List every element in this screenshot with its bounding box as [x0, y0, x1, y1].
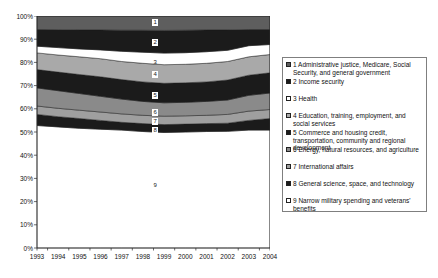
legend-item-4: 4 Education, training, employment, and s…	[286, 112, 424, 129]
band-number-label-3: 3	[152, 59, 158, 66]
legend-item-5: 5 Commerce and housing credit, transport…	[286, 129, 424, 146]
legend-swatch-7	[286, 164, 291, 169]
legend-label-3: 3 Health	[293, 95, 424, 103]
y-axis-label-40: 40%	[7, 152, 33, 159]
x-axis-label-2000: 2000	[174, 253, 196, 260]
legend-label-7: 7 International affairs	[293, 163, 424, 171]
y-axis-label-10: 10%	[7, 221, 33, 228]
band-number-label-8: 8	[152, 127, 158, 134]
x-axis-label-2001: 2001	[196, 253, 218, 260]
legend-swatch-3	[286, 96, 291, 101]
legend-item-2: 2 Income security	[286, 78, 424, 95]
legend-swatch-6	[286, 147, 291, 152]
legend-label-4: 4 Education, training, employment, and s…	[293, 112, 424, 127]
y-axis-label-70: 70%	[7, 82, 33, 89]
band-number-label-1: 1	[152, 19, 158, 26]
legend-item-1: 1 Administrative justice, Medicare, Soci…	[286, 61, 424, 78]
band-number-label-6: 6	[152, 109, 158, 116]
y-axis-label-100: 100%	[7, 13, 33, 20]
x-axis-label-1993: 1993	[26, 253, 48, 260]
legend-item-3: 3 Health	[286, 95, 424, 112]
y-axis-label-30: 30%	[7, 175, 33, 182]
legend-label-9: 9 Narrow military spending and veterans'…	[293, 197, 424, 212]
x-axis-label-1997: 1997	[111, 253, 133, 260]
x-axis-label-2003: 2003	[238, 253, 260, 260]
y-axis-label-0: 0%	[7, 245, 33, 252]
band-number-label-4: 4	[152, 71, 158, 78]
x-axis-label-1999: 1999	[153, 253, 175, 260]
legend-swatch-4	[286, 113, 291, 118]
legend-label-6: 6 Energy, natural resources, and agricul…	[293, 146, 424, 154]
legend-label-1: 1 Administrative justice, Medicare, Soci…	[293, 61, 424, 76]
legend-swatch-8	[286, 181, 291, 186]
plot-area	[33, 16, 270, 258]
x-axis-label-1995: 1995	[68, 253, 90, 260]
legend: 1 Administrative justice, Medicare, Soci…	[282, 57, 427, 212]
band-number-label-9: 9	[152, 182, 158, 189]
y-axis-label-60: 60%	[7, 105, 33, 112]
x-axis-label-1994: 1994	[47, 253, 69, 260]
legend-item-8: 8 General science, space, and technology	[286, 180, 424, 197]
legend-label-2: 2 Income security	[293, 78, 424, 86]
x-axis-label-2002: 2002	[217, 253, 239, 260]
legend-swatch-2	[286, 79, 291, 84]
legend-item-9: 9 Narrow military spending and veterans'…	[286, 197, 424, 214]
x-axis-label-2004: 2004	[259, 253, 281, 260]
band-number-label-7: 7	[152, 118, 158, 125]
y-axis-label-20: 20%	[7, 198, 33, 205]
legend-item-6: 6 Energy, natural resources, and agricul…	[286, 146, 424, 163]
band-number-label-2: 2	[152, 39, 158, 46]
y-axis-label-90: 90%	[7, 36, 33, 43]
legend-swatch-9	[286, 198, 291, 203]
legend-item-7: 7 International affairs	[286, 163, 424, 180]
stacked-area-chart: 0%10%20%30%40%50%60%70%80%90%100% 199319…	[0, 0, 438, 278]
y-axis-label-80: 80%	[7, 59, 33, 66]
x-axis-label-1998: 1998	[132, 253, 154, 260]
legend-swatch-1	[286, 62, 291, 67]
x-axis-label-1996: 1996	[90, 253, 112, 260]
legend-label-8: 8 General science, space, and technology	[293, 180, 424, 188]
band-number-label-5: 5	[152, 92, 158, 99]
y-axis-label-50: 50%	[7, 129, 33, 136]
legend-swatch-5	[286, 130, 291, 135]
